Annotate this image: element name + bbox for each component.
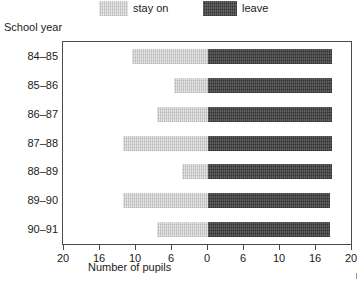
y-axis-tick-label: 89–90: [27, 195, 58, 206]
x-axis-tick-mark: [63, 245, 64, 250]
bar-leave: [208, 136, 332, 151]
x-axis-tick-mark: [243, 245, 244, 250]
page-corner-mark: [356, 273, 357, 279]
legend-entry-stay-on: stay on: [99, 1, 168, 16]
y-axis-tick-label: 88–89: [27, 166, 58, 177]
y-axis-tick-label: 85–86: [27, 80, 58, 91]
bar-leave: [208, 164, 332, 179]
x-axis-tick-mark: [135, 245, 136, 250]
bar-stay-on: [157, 222, 208, 237]
x-axis-tick-mark: [351, 245, 352, 250]
bidirectional-bar-chart: stay on leave School year 84–8585–8686–8…: [0, 0, 362, 281]
y-axis-tick-label: 84–85: [27, 51, 58, 62]
legend-entry-leave: leave: [203, 1, 268, 16]
bar-leave: [208, 78, 332, 93]
x-axis-tick-mark: [99, 245, 100, 250]
x-axis-tick-mark: [171, 245, 172, 250]
x-axis-title: Number of pupils: [88, 262, 171, 273]
bar-stay-on: [132, 49, 208, 64]
x-axis-tick-label: 20: [345, 253, 357, 264]
bar-row: [63, 193, 351, 208]
y-axis-title: School year: [4, 22, 62, 33]
bar-row: [63, 136, 351, 151]
y-axis-tick-label: 86–87: [27, 109, 58, 120]
legend-label-leave: leave: [242, 3, 268, 14]
x-axis-tick-mark: [207, 245, 208, 250]
bar-row: [63, 222, 351, 237]
bars-container: [63, 42, 351, 244]
legend-swatch-stay-on-icon: [99, 1, 128, 16]
bar-stay-on: [174, 78, 208, 93]
bar-row: [63, 49, 351, 64]
x-axis-tick-mark: [279, 245, 280, 250]
plot-area: [62, 41, 352, 245]
bar-stay-on: [123, 136, 208, 151]
bar-stay-on: [157, 107, 208, 122]
bar-leave: [208, 107, 332, 122]
x-axis-tick-label: 16: [309, 253, 321, 264]
bar-leave: [208, 193, 330, 208]
legend-label-stay-on: stay on: [133, 3, 168, 14]
bar-leave: [208, 222, 330, 237]
y-axis-tick-labels: 84–8585–8686–8787–8888–8989–9090–91: [0, 41, 62, 245]
bar-leave: [208, 49, 332, 64]
bar-row: [63, 164, 351, 179]
x-axis-tick-label: 10: [273, 253, 285, 264]
chart-legend: stay on leave: [0, 0, 362, 20]
bar-row: [63, 107, 351, 122]
bar-stay-on: [182, 164, 208, 179]
bar-stay-on: [123, 193, 208, 208]
y-axis-tick-label: 87–88: [27, 138, 58, 149]
bar-row: [63, 78, 351, 93]
y-axis-tick-label: 90–91: [27, 224, 58, 235]
x-axis-tick-label: 20: [57, 253, 69, 264]
x-axis-tick-mark: [315, 245, 316, 250]
x-axis-tick-label: 0: [204, 253, 210, 264]
x-axis-tick-label: 6: [240, 253, 246, 264]
legend-swatch-leave-icon: [203, 1, 237, 16]
